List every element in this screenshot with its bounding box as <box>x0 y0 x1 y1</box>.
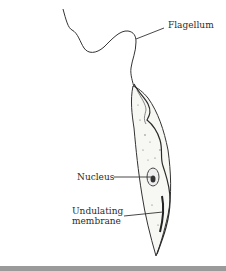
undulating-label-line1: Undulating <box>72 206 123 216</box>
flagellum-line <box>63 9 136 88</box>
flagellum-leader <box>136 28 164 39</box>
flagellum-label: Flagellum <box>168 20 214 30</box>
undulating-label-line2: membrane <box>72 216 123 226</box>
bottom-divider-bar <box>0 266 226 271</box>
nucleus-label: Nucleus <box>77 172 114 182</box>
trypanosome-illustration <box>0 0 226 271</box>
diagram-figure: Flagellum Nucleus Undulating membrane <box>0 0 226 271</box>
undulating-membrane-label: Undulating membrane <box>72 206 123 226</box>
